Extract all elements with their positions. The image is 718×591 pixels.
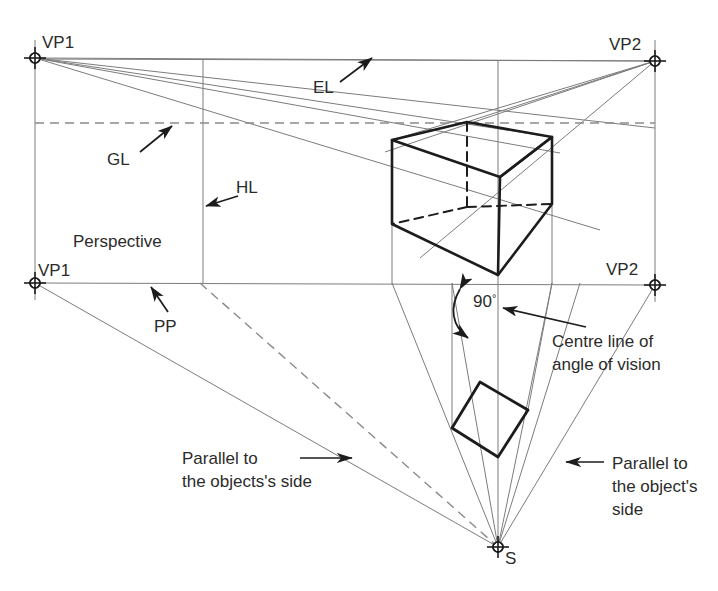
plan-leader-right: [528, 283, 552, 410]
picture-plane-line: [35, 283, 655, 285]
ray-vp2-d: [420, 61, 655, 258]
vp2-bottom-label: VP2: [606, 260, 638, 279]
parallel-right-label-3: side: [612, 500, 643, 519]
centre-line-label-1: Centre line of: [552, 332, 653, 351]
station-point-label: S: [505, 549, 516, 568]
parallel-right-label-1: Parallel to: [612, 454, 688, 473]
gl-leader-arrow: [140, 126, 172, 152]
perspective-label: Perspective: [73, 232, 162, 251]
ray-vp1-b: [35, 58, 655, 128]
right-angle-arc: [453, 289, 468, 338]
cube-hidden-edge-right: [467, 204, 552, 207]
ray-vp2-a: [392, 61, 655, 140]
vp2-top-label: VP2: [609, 35, 641, 54]
pp-label: PP: [154, 317, 177, 336]
cube-top-face: [392, 122, 552, 177]
ray-vp2-c: [467, 61, 655, 122]
ray-vp1-c: [35, 58, 552, 137]
text-labels: VP1 VP2 VP1 VP2 EL GL HL PP Perspective …: [38, 33, 697, 568]
plan-square-outline: [452, 382, 528, 457]
vp1-bottom-label: VP1: [38, 261, 70, 280]
parallel-right-label-2: the object's: [612, 477, 697, 496]
el-leader-arrow: [340, 58, 372, 82]
right-angle-value: 90: [473, 292, 492, 311]
ray-vp1-d: [35, 58, 560, 153]
vanishing-point-markers: [24, 47, 666, 558]
gl-label: GL: [107, 150, 130, 169]
perspective-diagram: VP1 VP2 VP1 VP2 EL GL HL PP Perspective …: [0, 0, 718, 591]
right-angle-label: 90°: [473, 292, 496, 311]
sight-ray-1: [392, 283, 498, 547]
construction-lines: [35, 40, 655, 547]
ray-vp1-bottom-to-s: [35, 283, 498, 547]
cube-visible-edges: [392, 122, 552, 275]
vp2-bottom-marker: [644, 274, 666, 296]
vp1-top-label: VP1: [42, 33, 74, 52]
cube-object: [392, 122, 552, 275]
parallel-left-label-1: Parallel to: [182, 449, 258, 468]
vp2-top-marker: [644, 50, 666, 72]
plan-square: [452, 382, 528, 457]
cube-hidden-edge-left: [392, 207, 467, 224]
el-label: EL: [313, 78, 334, 97]
pp-leader-arrow: [151, 287, 168, 312]
parallel-left-label-2: the objects's side: [182, 472, 312, 491]
dashed-diagonal-to-s: [200, 283, 498, 547]
degree-symbol: °: [492, 292, 496, 304]
diagram-canvas: VP1 VP2 VP1 VP2 EL GL HL PP Perspective …: [0, 0, 718, 591]
cube-left-face: [392, 140, 500, 275]
angle-arc-path: [453, 289, 468, 338]
centre-line-label-2: angle of vision: [552, 355, 661, 374]
hl-label: HL: [236, 178, 258, 197]
hl-leader-arrow: [206, 196, 238, 206]
